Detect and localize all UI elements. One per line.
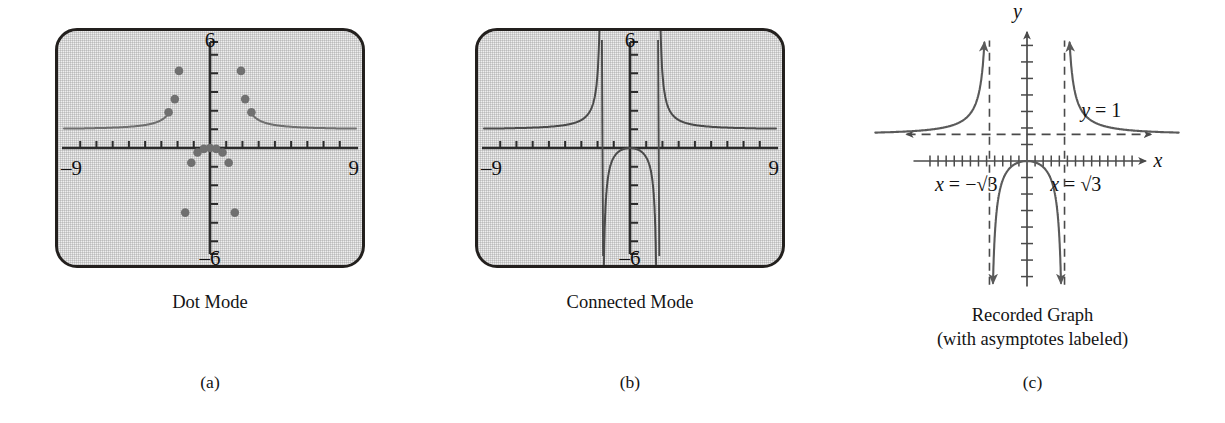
plot-dot — [224, 158, 233, 167]
panel-letter-b: (b) — [420, 372, 840, 393]
panel-letter-a: (a) — [0, 372, 420, 393]
figure-graphing-rational-function: 6 –6 –9 9 Dot Mode (a) 6 –6 –9 9 Connect… — [0, 0, 1225, 423]
left-vertical-asymptote-label: x = −√3 — [934, 173, 997, 195]
screen-label-bottom-b: –6 — [475, 248, 785, 269]
panel-a-dot-mode: 6 –6 –9 9 Dot Mode (a) — [0, 0, 420, 423]
curve-branch — [64, 115, 168, 129]
asymptote-artifact-line — [602, 40, 603, 256]
plot-dot — [241, 95, 250, 104]
y-axis-label: y — [1011, 6, 1022, 23]
plot-dot — [164, 108, 173, 117]
screen-plot-a — [58, 31, 362, 265]
calculator-screen-a: 6 –6 –9 9 — [55, 28, 365, 268]
caption-c-line1: Recorded Graph — [840, 303, 1225, 327]
recorded-graph-svg: xyy = 1x = −√3x = √3 — [852, 6, 1212, 296]
curve-middle-branch-left — [993, 161, 1027, 283]
screen-label-left-b: –9 — [481, 158, 502, 179]
calculator-screen-b: 6 –6 –9 9 — [475, 28, 785, 268]
screen-label-left-a: –9 — [61, 158, 82, 179]
screen-label-top-a: 6 — [55, 30, 365, 51]
plot-dot — [237, 67, 246, 76]
caption-c: Recorded Graph (with asymptotes labeled) — [840, 303, 1225, 352]
horizontal-asymptote-label: y = 1 — [1079, 99, 1121, 122]
curve-left-branch — [875, 43, 984, 133]
asymptote-artifact-line — [658, 40, 659, 256]
screen-label-bottom-a: –6 — [55, 248, 365, 269]
plot-dot — [218, 148, 227, 157]
panel-b-connected-mode: 6 –6 –9 9 Connected Mode (b) — [420, 0, 840, 423]
panel-c-recorded-graph: xyy = 1x = −√3x = √3 Recorded Graph (wit… — [840, 0, 1225, 423]
right-vertical-asymptote-label: x = √3 — [1049, 173, 1101, 195]
plot-dot — [231, 208, 240, 217]
screen-bezel-b — [475, 28, 785, 268]
plot-dot — [181, 208, 190, 217]
x-axis-label: x — [1152, 149, 1162, 171]
panel-letter-c: (c) — [840, 372, 1225, 393]
plot-dot — [171, 95, 180, 104]
plot-dot — [247, 108, 256, 117]
plot-dot — [175, 67, 184, 76]
plot-dot — [187, 158, 196, 167]
screen-label-right-b: 9 — [769, 158, 780, 179]
screen-label-right-a: 9 — [349, 158, 360, 179]
caption-c-line2: (with asymptotes labeled) — [840, 327, 1225, 351]
screen-bezel-a — [55, 28, 365, 268]
caption-b: Connected Mode — [420, 290, 840, 314]
screen-plot-b — [478, 31, 782, 265]
caption-a: Dot Mode — [0, 290, 420, 314]
curve-branch — [253, 115, 357, 129]
screen-label-top-b: 6 — [475, 30, 785, 51]
